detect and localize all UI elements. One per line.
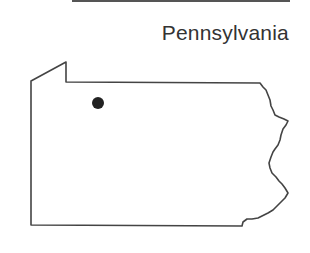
location-marker-dot — [92, 97, 104, 109]
state-outline — [31, 62, 288, 226]
state-map — [0, 0, 310, 253]
